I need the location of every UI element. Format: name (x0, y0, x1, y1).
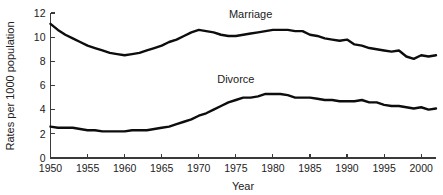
x-tick-label: 1955 (76, 162, 100, 174)
series-label-divorce: Divorce (217, 73, 254, 85)
y-tick-label: 12 (34, 7, 46, 19)
x-axis-title: Year (232, 180, 255, 192)
y-tick-label: 4 (40, 103, 46, 115)
line-chart: 024681012 195019551960196519701975198019… (0, 0, 443, 195)
x-tick-label: 2000 (409, 162, 433, 174)
y-tick-label: 2 (40, 128, 46, 140)
y-axis-title: Rates per 1000 population (4, 21, 16, 150)
x-axis-ticks: 1950195519601965197019751980198519901995… (39, 154, 433, 175)
chart-container: 024681012 195019551960196519701975198019… (0, 0, 443, 195)
series-line-marriage (51, 24, 437, 59)
x-tick-label: 1950 (39, 162, 63, 174)
series-annotations: MarriageDivorce (217, 8, 272, 85)
x-tick-label: 1980 (261, 162, 285, 174)
series-line-divorce (51, 94, 437, 131)
axes: 024681012 195019551960196519701975198019… (34, 7, 436, 174)
y-tick-label: 10 (34, 31, 46, 43)
series-label-marriage: Marriage (229, 8, 272, 20)
x-tick-label: 1960 (113, 162, 137, 174)
y-tick-label: 8 (40, 55, 46, 67)
x-tick-label: 1970 (187, 162, 211, 174)
x-tick-label: 1965 (150, 162, 174, 174)
x-tick-label: 1985 (298, 162, 322, 174)
y-tick-label: 6 (40, 79, 46, 91)
x-tick-label: 1975 (224, 162, 248, 174)
x-tick-label: 1990 (335, 162, 359, 174)
y-axis-ticks: 024681012 (34, 7, 55, 164)
x-tick-label: 1995 (372, 162, 396, 174)
